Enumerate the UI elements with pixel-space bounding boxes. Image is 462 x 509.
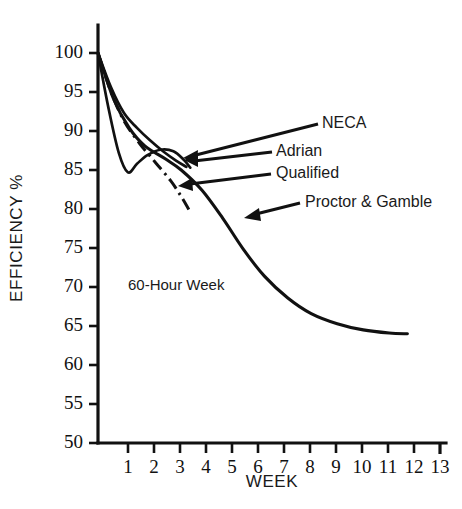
chart-canvas: 50556065707580859095100 1234567891011121… [0,0,462,509]
series-adrian [98,53,190,173]
x-tick-label-4: 4 [201,456,211,477]
y-tick-label-100: 100 [55,41,84,62]
series-qualified [98,53,189,210]
callout-label-proctor-gamble: Proctor & Gamble [305,193,432,210]
y-tick-label-85: 85 [64,158,83,179]
x-tick-label-1: 1 [123,456,133,477]
qualified-arrow-head [178,178,193,191]
y-tick-label-70: 70 [64,275,83,296]
y-tick-label-65: 65 [64,314,83,335]
proctor-gamble-leader-line [256,203,300,214]
x-tick-label-13: 13 [431,456,450,477]
y-tick-label-80: 80 [64,197,83,218]
callout-label-neca: NECA [322,114,367,131]
x-axis-title: WEEK [246,472,299,491]
x-tick-label-8: 8 [305,456,315,477]
x-tick-label-11: 11 [379,456,397,477]
y-tick-label-55: 55 [64,392,83,413]
x-tick-label-3: 3 [175,456,185,477]
efficiency-chart: 50556065707580859095100 1234567891011121… [0,0,462,509]
callout-label-qualified: Qualified [276,164,339,181]
proctor-gamble-arrow-head [244,208,261,221]
x-tick-label-10: 10 [353,456,372,477]
y-tick-label-90: 90 [64,119,83,140]
qualified-leader-line [190,174,271,184]
x-tick-label-5: 5 [227,456,237,477]
x-tick-label-9: 9 [331,456,341,477]
y-tick-label-75: 75 [64,236,83,257]
y-axis-title: EFFICIENCY % [7,174,26,302]
callout-label-adrian: Adrian [276,142,322,159]
sixty-hour-week-note: 60-Hour Week [128,276,225,293]
axes-group [98,25,446,443]
x-tick-label-12: 12 [405,456,424,477]
x-tick-label-2: 2 [149,456,159,477]
y-tick-label-60: 60 [64,353,83,374]
y-tick-label-50: 50 [64,431,83,452]
y-tick-group: 50556065707580859095100 [55,41,99,452]
y-tick-label-95: 95 [64,80,83,101]
